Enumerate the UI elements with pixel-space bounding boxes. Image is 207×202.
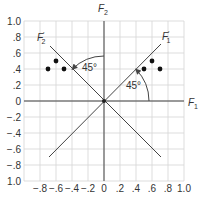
- x-tick-label: 1.0: [177, 183, 191, 194]
- y-tick-label: .4: [13, 64, 22, 75]
- y-tick-label: −.8: [7, 160, 22, 171]
- diagram-svg: 45° 45° 1.0.8.6.4.20−.2−.4−.6−.81.0 −.8−…: [0, 0, 207, 202]
- x-tick-label: .6: [148, 183, 157, 194]
- origin-dot: [102, 99, 106, 103]
- f2-rotated-axis-label: F′2: [37, 31, 45, 45]
- y-tick-label: −.6: [7, 144, 22, 155]
- data-point: [46, 67, 51, 72]
- y-tick-label: −.4: [7, 128, 22, 139]
- y-tick-label: −.2: [7, 112, 22, 123]
- x-tick-label: 0: [101, 183, 107, 194]
- y-tick-label: 1.0: [7, 176, 21, 187]
- y-tick-label: 0: [15, 96, 21, 107]
- x-tick-label: .4: [132, 183, 141, 194]
- y-tick-label: .6: [13, 48, 22, 59]
- x-tick-label: −.8: [33, 183, 48, 194]
- x-tick-label: .2: [116, 183, 125, 194]
- x-tick-label: .8: [164, 183, 173, 194]
- y-tick-label: .8: [13, 32, 22, 43]
- data-point: [150, 59, 155, 64]
- x-tick-label: −.6: [49, 183, 64, 194]
- f2-axis-label: F2: [98, 3, 108, 16]
- data-point: [158, 67, 163, 72]
- data-point: [62, 67, 67, 72]
- y-tick-label: .2: [13, 80, 22, 91]
- factor-rotation-diagram: 45° 45° 1.0.8.6.4.20−.2−.4−.6−.81.0 −.8−…: [0, 0, 207, 202]
- x-tick-labels: −.8−.6−.4−.20.2.4.6.81.0: [33, 183, 191, 194]
- y-tick-label: 1.0: [7, 16, 21, 27]
- f1-rotated-axis-label: F′1: [162, 30, 170, 44]
- x-tick-label: −.4: [65, 183, 80, 194]
- x-tick-label: −.2: [81, 183, 96, 194]
- left-angle-label: 45°: [82, 62, 97, 73]
- data-point: [142, 67, 147, 72]
- f1-axis-label: F1: [188, 97, 198, 110]
- y-tick-labels: 1.0.8.6.4.20−.2−.4−.6−.81.0: [7, 16, 22, 187]
- right-angle-label: 45°: [126, 80, 141, 91]
- data-point: [54, 59, 59, 64]
